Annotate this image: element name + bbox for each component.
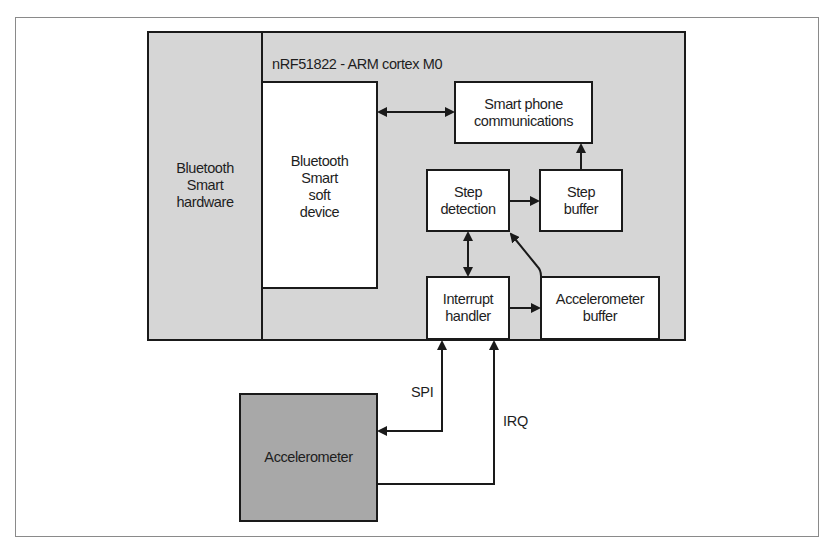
- step-detection-line-1: Step: [454, 184, 482, 201]
- irq-label: IRQ: [503, 413, 528, 429]
- soft-device-line-3: soft: [309, 187, 331, 204]
- irq-line: [377, 342, 494, 484]
- diagram-canvas: [0, 0, 835, 550]
- accel-buffer-line-1: Accelerometer: [556, 291, 644, 308]
- phone-comms-label: Smart phone communications: [455, 82, 592, 143]
- bt-hardware-line-2: Smart: [187, 177, 224, 194]
- phone-comms-line-2: communications: [474, 113, 573, 130]
- accel-buffer-line-2: buffer: [583, 308, 617, 325]
- soft-device-line-1: Bluetooth: [291, 153, 349, 170]
- spi-label: SPI: [411, 384, 433, 400]
- soft-device-label: Bluetooth Smart soft device: [262, 140, 377, 234]
- step-detection-label: Step detection: [427, 170, 509, 231]
- step-buffer-line-2: buffer: [564, 201, 598, 218]
- accel-buffer-label: Accelerometer buffer: [541, 277, 659, 339]
- interrupt-handler-line-2: handler: [445, 308, 491, 325]
- bt-hardware-label: Bluetooth Smart hardware: [148, 150, 262, 220]
- interrupt-handler-line-1: Interrupt: [443, 291, 493, 308]
- step-buffer-line-1: Step: [567, 184, 595, 201]
- chip-title: nRF51822 - ARM cortex M0: [272, 56, 442, 72]
- phone-comms-line-1: Smart phone: [484, 96, 563, 113]
- soft-device-line-4: device: [300, 204, 340, 221]
- step-buffer-label: Step buffer: [540, 170, 622, 231]
- step-detection-line-2: detection: [440, 201, 495, 218]
- bt-hardware-line-1: Bluetooth: [176, 160, 234, 177]
- accelerometer-label: Accelerometer: [240, 394, 377, 521]
- bt-hardware-line-3: hardware: [176, 194, 233, 211]
- interrupt-handler-label: Interrupt handler: [427, 277, 509, 339]
- accelerometer-line-1: Accelerometer: [264, 449, 352, 466]
- soft-device-line-2: Smart: [301, 170, 338, 187]
